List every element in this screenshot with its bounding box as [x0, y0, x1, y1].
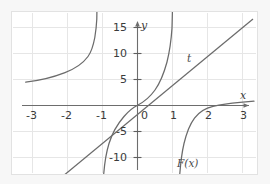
chart-screenshot: 15 10 5 -5 -10 -3 -2 -1 0 1 2 3 y x t F(…	[0, 0, 270, 184]
y-tick-label-10: 10	[113, 48, 127, 59]
y-axis-name: y	[141, 20, 147, 31]
series-curve-fx-branch-left	[26, 12, 97, 82]
series-line-t	[51, 19, 253, 184]
x-tick-label-minus-1: -1	[96, 110, 107, 121]
x-axis-arrow	[244, 103, 250, 108]
x-tick-label-3: 3	[240, 110, 247, 121]
y-tick-label-minus-5: -5	[116, 126, 127, 137]
x-tick-label-1: 1	[170, 110, 177, 121]
x-tick-label-minus-3: -3	[26, 110, 37, 121]
x-tick-label-2: 2	[205, 110, 212, 121]
y-tick-label-minus-10: -10	[109, 152, 127, 163]
function-plot	[0, 0, 270, 184]
x-tick-label-minus-2: -2	[61, 110, 72, 121]
y-tick-label-15: 15	[113, 22, 127, 33]
y-axis-arrow	[135, 21, 140, 27]
axes	[22, 22, 249, 170]
x-tick-label-0: 0	[141, 110, 148, 121]
y-tick-label-5: 5	[120, 74, 127, 85]
x-axis-name: x	[240, 90, 246, 101]
curve-label-t: t	[187, 53, 191, 64]
curve-label-fx: F(x)	[177, 158, 198, 169]
